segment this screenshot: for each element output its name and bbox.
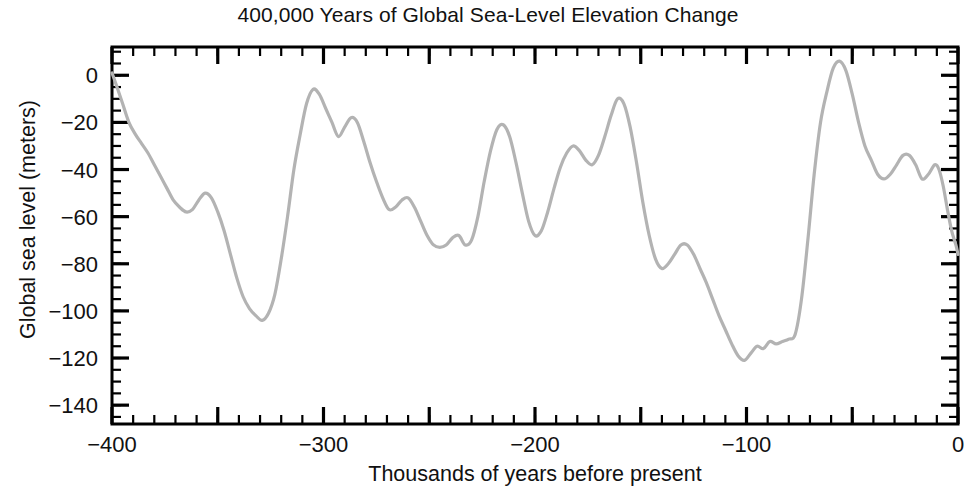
sea-level-line bbox=[112, 61, 958, 360]
y-tick-label: −20 bbox=[61, 110, 98, 135]
y-axis-tick-labels: 0−20−40−60−80−100−120−140 bbox=[48, 63, 98, 418]
y-tick-label: −40 bbox=[61, 158, 98, 183]
x-tick-label: −400 bbox=[87, 432, 137, 457]
y-tick-label: −100 bbox=[48, 299, 98, 324]
y-tick-label: −80 bbox=[61, 252, 98, 277]
x-tick-label: −200 bbox=[510, 432, 560, 457]
y-tick-label: −140 bbox=[48, 393, 98, 418]
x-axis-tick-labels: −400−300−200−1000 bbox=[87, 432, 964, 457]
y-tick-label: 0 bbox=[86, 63, 98, 88]
y-axis-major-ticks bbox=[112, 75, 958, 405]
plot-area: −400−300−200−1000 0−20−40−60−80−100−120−… bbox=[0, 0, 976, 497]
x-tick-label: −300 bbox=[299, 432, 349, 457]
y-tick-label: −120 bbox=[48, 346, 98, 371]
x-tick-label: 0 bbox=[952, 432, 964, 457]
x-tick-label: −100 bbox=[722, 432, 772, 457]
sea-level-chart-figure: 400,000 Years of Global Sea-Level Elevat… bbox=[0, 0, 976, 497]
y-tick-label: −60 bbox=[61, 205, 98, 230]
